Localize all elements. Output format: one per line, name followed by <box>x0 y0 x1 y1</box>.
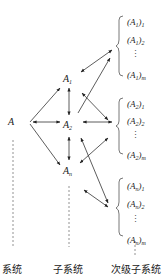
caption-secondary-subsystem: 次级子系统 <box>111 261 161 276</box>
group2-ellipsis: ⋮ <box>131 133 137 137</box>
node-system-a: A <box>8 117 14 127</box>
node-subsystem-a1: A1 <box>63 74 72 87</box>
groupn-item-1: (An)1 <box>127 181 145 194</box>
node-an-sub: n <box>69 171 72 177</box>
group1-item-m: (A1)m <box>127 70 146 83</box>
groupn-item-m: (An)m <box>127 235 146 248</box>
group2-item-m: (A2)m <box>127 150 146 163</box>
groupn-item-2: (An)2 <box>127 199 145 212</box>
node-subsystem-a2: A2 <box>63 120 72 133</box>
node-subsystem-an: An <box>63 166 72 179</box>
group1-item-2: (A1)2 <box>127 35 145 48</box>
caption-system: 系统 <box>2 261 22 276</box>
group2-item-2: (A2)2 <box>127 116 145 129</box>
group2-item-1: (A2)1 <box>127 99 145 112</box>
node-a1-sub: 1 <box>69 79 72 85</box>
caption-subsystem: 子系统 <box>53 261 83 276</box>
group1-item-1: (A1)1 <box>127 17 145 30</box>
group1-ellipsis: ⋮ <box>131 52 137 56</box>
groupn-ellipsis: ⋮ <box>131 217 137 221</box>
node-a2-sub: 2 <box>69 125 72 131</box>
